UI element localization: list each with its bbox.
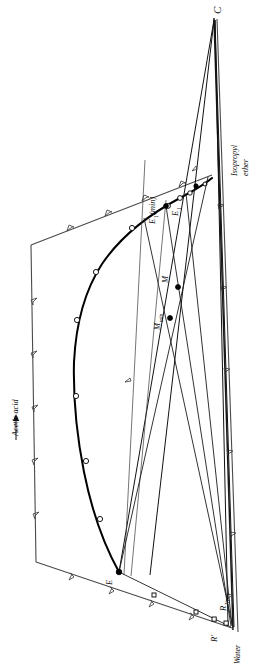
tick-marks-group	[31, 181, 236, 620]
label-E1min: E	[147, 218, 157, 225]
label-E: E	[104, 579, 114, 586]
label-E1min-suffix: (min)	[147, 196, 157, 215]
label-RNp: R	[218, 605, 228, 612]
point-Rprime	[212, 617, 216, 621]
binodal-markers-group	[73, 182, 207, 522]
special-points-group	[116, 184, 228, 625]
point-M	[176, 285, 181, 290]
binodal-marker-3	[73, 393, 78, 398]
tie-lines-group	[119, 160, 233, 628]
line-C-to-mid	[150, 20, 214, 575]
diagram-canvas: C Acetic acid Isopropyl ether Water E 1 …	[0, 0, 256, 666]
label-isopropyl-ether-line1: Isopropyl	[230, 144, 239, 177]
tick-left-3	[32, 405, 38, 412]
binodal-marker-1	[97, 516, 102, 521]
label-water: Water	[233, 644, 242, 664]
label-apex-C: C	[211, 6, 223, 14]
binodal-curve	[74, 178, 212, 572]
label-Mmin: M	[152, 322, 162, 331]
binodal-marker-2	[83, 458, 88, 463]
label-Mmin-group: M min	[152, 313, 164, 331]
line-C-to-E	[119, 20, 214, 572]
point-Mmin	[168, 316, 173, 321]
point-E1min	[164, 204, 169, 209]
marker-J-chevron	[125, 378, 131, 382]
label-M: M	[160, 275, 170, 284]
binodal-curve-group	[74, 178, 212, 572]
label-E1-sub: 1	[176, 207, 182, 210]
point-bottom-mid	[152, 593, 156, 597]
ternary-phase-diagram-figure: C Acetic acid Isopropyl ether Water E 1 …	[0, 0, 256, 666]
binodal-marker-8	[188, 191, 192, 195]
point-E1	[178, 196, 183, 201]
label-isopropyl-ether-line2: ether	[241, 158, 250, 176]
binodal-marker-4	[74, 317, 79, 322]
binodal-marker-6	[129, 225, 134, 230]
tick-left-5	[33, 512, 39, 519]
difference-point-line-1	[124, 160, 145, 575]
label-E1min-group: E 1 (min)	[147, 196, 159, 225]
label-Rprime: R′	[209, 635, 219, 643]
label-E1-group: E 1	[170, 207, 182, 217]
label-E1: E	[170, 210, 180, 217]
point-RNp	[224, 621, 228, 625]
point-E	[116, 569, 122, 575]
label-Mmin-sub: min	[158, 313, 164, 322]
stage-chord-line	[119, 177, 208, 572]
line-C-to-RNp	[215, 20, 234, 627]
label-RNp-group: R Np	[218, 598, 230, 612]
label-RNp-sub: Np	[224, 598, 230, 606]
label-acetic-acid: Acetic acid	[11, 398, 20, 437]
point-bottom-right	[194, 610, 198, 614]
axis-solvent-edge	[217, 19, 238, 632]
point-K	[194, 184, 198, 188]
tie-line-4	[144, 218, 233, 628]
binodal-marker-5	[93, 269, 98, 274]
axis-top-slant	[31, 175, 212, 245]
tick-left-2	[31, 351, 37, 358]
axis-bottom-slant	[36, 562, 232, 628]
